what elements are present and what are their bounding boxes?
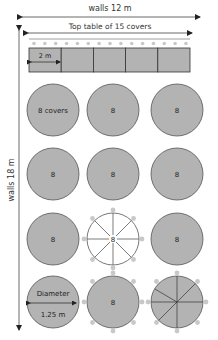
round-table: 8 covers	[27, 84, 79, 136]
seat-icon	[111, 329, 116, 334]
round-tables: 8 covers88888888Diameter1.25 m8	[27, 84, 208, 333]
top-table-seats	[32, 42, 188, 46]
seat-icon	[65, 42, 69, 46]
seat-icon	[111, 271, 116, 276]
round-table: 8	[151, 84, 203, 136]
table-cover-label: 8	[51, 236, 55, 244]
seat-icon	[175, 271, 180, 276]
round-table: 8	[27, 148, 79, 200]
round-table: 8	[87, 148, 139, 200]
floor-plan-diagram: walls 12 m walls 18 m Top table of 15 co…	[0, 0, 218, 340]
seat-icon	[154, 279, 159, 284]
segment-width-label: 2 m	[39, 52, 52, 60]
top-table-label: Top table of 15 covers	[68, 22, 152, 31]
table-cover-label: 8	[175, 171, 179, 179]
seat-icon	[162, 42, 166, 46]
table-cover-label: 8	[111, 107, 115, 115]
seat-icon	[76, 42, 80, 46]
diameter-label: Diameter	[37, 290, 70, 298]
seat-icon	[43, 42, 47, 46]
seat-icon	[131, 257, 136, 262]
seat-icon	[32, 42, 36, 46]
table-top	[27, 276, 79, 328]
seat-icon	[140, 300, 145, 305]
seat-icon	[131, 320, 136, 325]
seat-icon	[131, 279, 136, 284]
round-table	[146, 271, 209, 334]
seat-icon	[90, 320, 95, 325]
seat-icon	[86, 42, 90, 46]
table-cover-label: 8	[111, 171, 115, 179]
top-table-segment	[158, 48, 190, 72]
seat-icon	[175, 329, 180, 334]
top-table-segment	[61, 48, 93, 72]
top-table-segment	[126, 48, 158, 72]
top-table-segments	[29, 48, 190, 72]
walls-length-label: walls 18 m	[7, 158, 16, 201]
table-cover-label: 8	[111, 299, 115, 307]
seat-icon	[111, 208, 116, 213]
walls-width-label: walls 12 m	[88, 4, 131, 13]
seat-icon	[130, 42, 134, 46]
seat-icon	[90, 216, 95, 221]
table-cover-label: 8	[111, 236, 115, 244]
top-table-segment	[93, 48, 125, 72]
table-cover-label: 8	[175, 107, 179, 115]
seat-icon	[82, 237, 87, 242]
seat-icon	[146, 300, 151, 305]
round-table: 8	[82, 271, 145, 334]
seat-icon	[184, 42, 188, 46]
seat-icon	[152, 42, 156, 46]
seat-icon	[141, 42, 145, 46]
round-table: 8	[87, 84, 139, 136]
round-table: 8	[82, 208, 145, 271]
round-table: 8	[151, 213, 203, 265]
table-cover-label: 8 covers	[38, 107, 68, 115]
seat-icon	[82, 300, 87, 305]
table-cover-label: 8	[175, 236, 179, 244]
seat-icon	[111, 266, 116, 271]
seat-icon	[204, 300, 209, 305]
walls-width-dimension: walls 12 m	[22, 4, 200, 17]
diameter-value: 1.25 m	[41, 311, 66, 319]
top-table: Top table of 15 covers 2 m	[28, 22, 192, 72]
seat-icon	[97, 42, 101, 46]
round-table: 8	[151, 148, 203, 200]
round-table: Diameter1.25 m	[27, 276, 79, 328]
seat-icon	[195, 279, 200, 284]
round-table: 8	[27, 213, 79, 265]
seat-icon	[140, 237, 145, 242]
walls-length-dimension: walls 18 m	[7, 30, 19, 330]
seat-icon	[108, 42, 112, 46]
seat-icon	[119, 42, 123, 46]
seat-icon	[154, 320, 159, 325]
seat-icon	[54, 42, 58, 46]
seat-icon	[90, 279, 95, 284]
seat-icon	[131, 216, 136, 221]
seat-icon	[90, 257, 95, 262]
seat-icon	[195, 320, 200, 325]
seat-icon	[173, 42, 177, 46]
table-cover-label: 8	[51, 171, 55, 179]
